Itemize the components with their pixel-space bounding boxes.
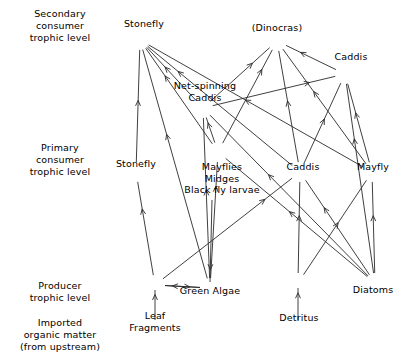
edge-caddis_sec-to-dinocras [286,45,336,69]
edge-mayfly-to-stonefly_sec [149,45,364,167]
trophic-level-line: consumer [30,154,91,166]
node-label-line: Caddis [174,92,236,104]
node-mayflies[interactable]: MayfliesMidgesBlack fly larvae [184,161,259,196]
arrowhead-detritus-to-mayfly [333,223,338,229]
node-diatoms[interactable]: Diatoms [353,284,394,296]
edge-mayfly-to-caddis_sec [348,84,370,163]
node-label-line: Midges [184,173,259,185]
edge-stonefly_pri-to-stonefly_sec [136,50,139,162]
node-label-line: Stonefly [124,18,164,30]
node-stonefly_pri[interactable]: Stonefly [116,158,156,170]
node-caddis_sec[interactable]: Caddis [334,51,367,63]
trophic-level-line: trophic level [30,32,91,44]
node-mayfly[interactable]: Mayfly [357,161,389,173]
trophic-level-line: consumer [30,20,91,32]
edge-diatoms-to-net_caddis [210,115,368,276]
node-label-line: Detritus [279,312,318,324]
node-label-line: Diatoms [353,284,394,296]
node-green_algae[interactable]: Green Algae [180,285,240,297]
node-label-line: Caddis [334,51,367,63]
node-label-line: (Dinocras) [252,22,303,34]
node-dinocras[interactable]: (Dinocras) [252,22,303,34]
trophic-level-primary: Primaryconsumertrophic level [30,142,91,178]
edge-caddis_pri-to-stonefly_sec [148,46,293,165]
node-label-line: Mayflies [184,161,259,173]
node-label-line: Fragments [129,322,181,334]
node-leaf_fragments[interactable]: LeafFragments [129,310,181,333]
edge-leaf_fragments-to-stonefly_pri [138,182,154,275]
trophic-level-line: Imported [20,317,100,329]
node-stonefly_sec[interactable]: Stonefly [124,18,164,30]
node-detritus[interactable]: Detritus [279,312,318,324]
trophic-level-imported: Importedorganic matter(from upstream) [20,317,100,353]
arrowhead-diatoms-to-caddis_pri [324,208,329,214]
node-label-line: Black fly larvae [184,184,259,196]
node-label-line: Net-spinning [174,80,236,92]
edge-detritus-to-mayfly [304,180,367,274]
node-label-line: Leaf [129,310,181,322]
trophic-level-line: Producer [30,280,91,292]
edge-green_algae-to-net_caddis [203,118,209,278]
edge-diatoms-to-caddis_sec [346,84,373,273]
trophic-level-line: Secondary [30,8,91,20]
trophic-level-line: trophic level [30,166,91,178]
edge-caddis_pri-to-dinocras [279,51,299,162]
node-net_caddis[interactable]: Net-spinningCaddis [174,80,236,103]
node-label-line: Caddis [286,161,319,173]
food-web-figure: Secondaryconsumertrophic levelPrimarycon… [0,0,403,364]
node-label-line: Stonefly [116,158,156,170]
node-label-line: Mayfly [357,161,389,173]
trophic-level-line: (from upstream) [20,341,100,353]
trophic-level-producer: Producertrophic level [30,280,91,304]
node-label-line: Green Algae [180,285,240,297]
edge-mayflies-to-net_caddis [206,117,215,142]
trophic-level-line: Primary [30,142,91,154]
edge-detritus-to-caddis_pri [298,182,300,273]
trophic-level-line: trophic level [30,292,91,304]
node-caddis_pri[interactable]: Caddis [286,161,319,173]
trophic-level-line: organic matter [20,329,100,341]
trophic-level-secondary: Secondaryconsumertrophic level [30,8,91,44]
standalone-arrow-group [153,200,301,320]
edge-diatoms-to-mayfly [372,182,374,273]
